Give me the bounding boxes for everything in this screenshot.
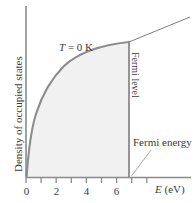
- density-of-states-tail-line: [129, 17, 190, 42]
- x-tick-label-0: 0: [20, 186, 33, 197]
- x-axis-unit: (eV): [164, 183, 184, 195]
- x-tick-label-4: 4: [80, 186, 93, 197]
- fermi-distribution-figure: Density of occupied states T = 0 K Fermi…: [0, 0, 196, 203]
- x-axis-symbol: E: [155, 183, 162, 195]
- x-tick-label-2: 2: [50, 186, 63, 197]
- fermi-energy-leader-line: [132, 150, 152, 176]
- temperature-value: = 0 K: [68, 41, 93, 53]
- temperature-annotation: T = 0 K: [59, 42, 93, 53]
- plot-area: [0, 0, 196, 203]
- temperature-symbol: T: [59, 41, 65, 53]
- fermi-level-label: Fermi level: [130, 52, 140, 98]
- y-axis-label: Density of occupied states: [13, 56, 24, 172]
- x-axis-label: E (eV): [155, 184, 185, 195]
- x-tick-label-6: 6: [110, 186, 123, 197]
- fermi-energy-label: Fermi energy: [133, 137, 192, 148]
- occupied-states-fill: [27, 42, 129, 177]
- x-axis-ticks: [26, 178, 147, 184]
